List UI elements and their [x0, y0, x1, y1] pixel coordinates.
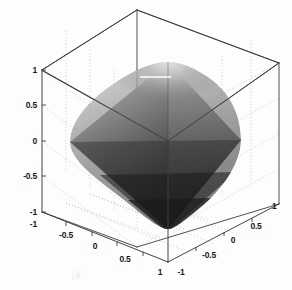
z-tick-label-neg0_5: -0.5 [23, 172, 37, 181]
z-tick-label-neg1: -1 [30, 208, 37, 217]
y-tick-label-1: 1 [272, 202, 277, 211]
y-tick-label-neg0_5: -0.5 [202, 251, 216, 260]
y-tick-label-neg1: -1 [177, 268, 184, 277]
x-tick-label-1: 1 [158, 268, 163, 277]
x-tick-label-neg0_5: -0.5 [59, 231, 73, 240]
figure-canvas: 1 0.5 0 -0.5 -1 -1 -0.5 0 0.5 1 -1 -0.5 … [0, 0, 292, 290]
x-tick-label-neg1: -1 [30, 220, 37, 229]
z-tick-label-1: 1 [32, 66, 37, 75]
z-tick-label-0: 0 [32, 137, 37, 146]
z-tick-label-0_5: 0.5 [26, 101, 37, 110]
x-tick-label-0: 0 [93, 242, 98, 251]
surface-grain [60, 55, 255, 240]
y-tick-label-0_5: 0.5 [250, 222, 261, 231]
y-tick-label-0: 0 [231, 236, 236, 245]
surface-plot-svg [0, 0, 292, 290]
x-tick-label-0_5: 0.5 [119, 255, 130, 264]
